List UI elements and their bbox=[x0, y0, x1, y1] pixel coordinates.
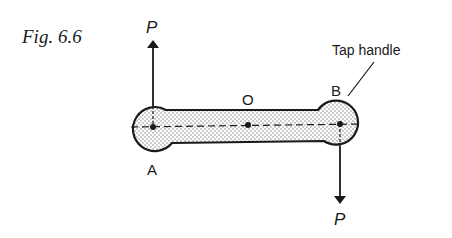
point-o-label: O bbox=[242, 91, 254, 108]
point-b-label: B bbox=[331, 82, 341, 99]
point-a-dot bbox=[150, 124, 156, 130]
tap-handle-callout: Tap handle bbox=[332, 42, 401, 58]
point-a-label: A bbox=[147, 161, 157, 178]
force-label-lower: P bbox=[334, 210, 346, 229]
tap-handle-diagram: P P A B O Tap handle bbox=[0, 0, 452, 238]
point-b-dot bbox=[337, 121, 343, 127]
point-o-dot bbox=[245, 122, 251, 128]
force-label-upper: P bbox=[146, 18, 158, 37]
callout-leader bbox=[348, 62, 374, 96]
